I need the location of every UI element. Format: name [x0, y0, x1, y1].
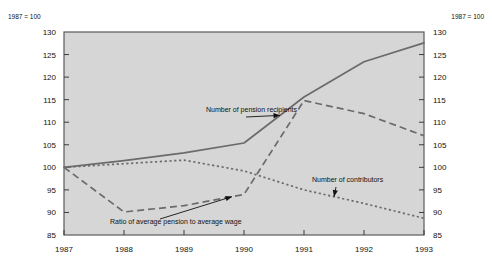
y-axis-tick-label-right: 95 — [433, 186, 442, 195]
x-axis-tick-label: 1991 — [295, 245, 313, 254]
y-axis-tick-label-left: 125 — [43, 51, 57, 60]
line-chart: 8585909095951001001051051101101151151201… — [0, 0, 492, 268]
chart-container: 8585909095951001001051051101101151151201… — [0, 0, 492, 268]
x-axis-tick-label: 1992 — [355, 245, 373, 254]
y-axis-tick-label-left: 120 — [43, 73, 57, 82]
index-note-left: 1987 = 100 — [8, 13, 41, 20]
y-axis-tick-label-right: 120 — [433, 73, 447, 82]
x-axis-tick-label: 1990 — [235, 245, 253, 254]
y-axis-tick-label-right: 105 — [433, 141, 447, 150]
series-annotation-label: Ratio of average pension to average wage — [110, 218, 242, 226]
y-axis-tick-label-left: 90 — [47, 208, 56, 217]
series-annotation-label: Number of contributors — [312, 176, 384, 183]
series-annotation-label: Number of pension recipients — [206, 106, 298, 114]
plot-area — [64, 32, 424, 235]
y-axis-tick-label-left: 100 — [43, 163, 57, 172]
x-axis-tick-label: 1993 — [415, 245, 433, 254]
y-axis-tick-label-left: 95 — [47, 186, 56, 195]
y-axis-tick-label-left: 110 — [43, 118, 56, 127]
y-axis-tick-label-right: 100 — [433, 163, 447, 172]
x-axis-tick-label: 1987 — [55, 245, 73, 254]
y-axis-tick-label-right: 90 — [433, 208, 442, 217]
x-axis-tick-label: 1989 — [175, 245, 193, 254]
y-axis-tick-label-left: 85 — [47, 231, 56, 240]
y-axis-tick-label-right: 115 — [433, 96, 446, 105]
y-axis-tick-label-right: 130 — [433, 28, 447, 37]
y-axis-tick-label-right: 110 — [433, 118, 446, 127]
y-axis-tick-label-left: 115 — [43, 96, 56, 105]
y-axis-tick-label-left: 130 — [43, 28, 57, 37]
y-axis-tick-label-right: 125 — [433, 51, 447, 60]
y-axis-tick-label-left: 105 — [43, 141, 57, 150]
x-axis-tick-label: 1988 — [115, 245, 133, 254]
index-note-right: 1987 = 100 — [451, 13, 484, 20]
y-axis-tick-label-right: 85 — [433, 231, 442, 240]
